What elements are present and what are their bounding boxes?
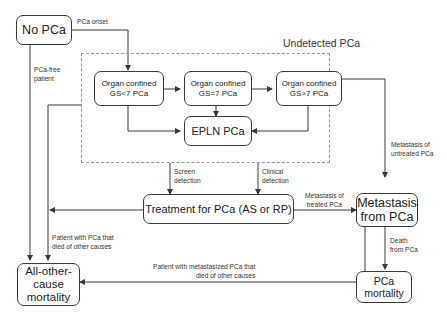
label-line1: Patient with PCa that	[52, 234, 114, 243]
edge-label-clinical-detection: Clinical detection	[262, 168, 289, 185]
label-line2: died of other causes	[153, 272, 255, 281]
label-line2: untreated PCa	[391, 150, 434, 159]
node-label-line1: All-other-	[25, 265, 72, 278]
node-label: No PCa	[22, 23, 66, 37]
label-line2: detection	[262, 177, 289, 186]
node-pca-mortality[interactable]: PCa mortality	[356, 271, 412, 303]
label-line1: Screen	[174, 168, 201, 177]
node-epln-pca[interactable]: EPLN PCa	[184, 116, 252, 146]
edge-label-pca-free: PCa-free patient	[34, 66, 60, 83]
edge-label-died-other-metastasized: Patient with metastasized PCa that died …	[153, 263, 255, 280]
node-metastasis[interactable]: Metastasis from PCa	[356, 193, 418, 227]
edge-label-pca-onset: PCa onset	[77, 18, 108, 27]
node-label-line1: Organ confined	[102, 79, 157, 88]
label-line1: Metastasis of	[391, 141, 434, 150]
node-no-pca[interactable]: No PCa	[16, 15, 72, 45]
node-label-line2: GS=7 PCa	[199, 89, 237, 98]
label-line2: treated PCa	[305, 201, 344, 210]
node-label-line1: PCa	[374, 275, 394, 287]
label-line1: Patient with metastasized PCa that	[153, 263, 255, 272]
node-label-line1: Metastasis	[357, 196, 417, 210]
label-line1: Metastasis of	[305, 192, 344, 201]
node-label: Treatment for PCa (AS or RP)	[145, 203, 291, 216]
label-line2: died of other causes	[52, 243, 114, 252]
node-label-line2: GS<7 PCa	[110, 89, 148, 98]
edge-label-died-other-treated: Patient with PCa that died of other caus…	[52, 234, 114, 251]
node-gs-gt7[interactable]: Organ confined GS>7 PCa	[276, 71, 342, 106]
node-label-line2: cause	[33, 278, 64, 291]
label-line1: PCa-free	[34, 66, 60, 75]
group-title: Undetected PCa	[283, 37, 360, 49]
edge-label-screen-detection: Screen detection	[174, 168, 201, 185]
node-treatment[interactable]: Treatment for PCa (AS or RP)	[143, 194, 294, 224]
node-label-line2: from PCa	[361, 210, 414, 224]
label-text: PCa onset	[77, 18, 108, 25]
node-label-line2: mortality	[364, 287, 404, 299]
undetected-pca-group	[81, 53, 330, 163]
node-label-line1: Organ confined	[282, 79, 337, 88]
node-label-line2: GS>7 PCa	[290, 89, 328, 98]
edge-label-metastasis-untreated: Metastasis of untreated PCa	[391, 141, 434, 158]
label-line1: Death	[390, 237, 418, 246]
node-all-other-cause-mortality[interactable]: All-other- cause mortality	[17, 263, 80, 306]
label-line2: from PCa	[390, 246, 418, 255]
node-label-line3: mortality	[27, 291, 70, 304]
label-line1: Clinical	[262, 168, 289, 177]
edge-label-metastasis-treated: Metastasis of treated PCa	[305, 192, 344, 209]
node-label: EPLN PCa	[191, 125, 244, 138]
node-gs-eq7[interactable]: Organ confined GS=7 PCa	[184, 71, 252, 106]
label-line2: detection	[174, 177, 201, 186]
edge-label-death-from-pca: Death from PCa	[390, 237, 418, 254]
node-gs-lt7[interactable]: Organ confined GS<7 PCa	[94, 71, 164, 106]
node-label-line1: Organ confined	[191, 79, 246, 88]
label-line2: patient	[34, 75, 60, 84]
